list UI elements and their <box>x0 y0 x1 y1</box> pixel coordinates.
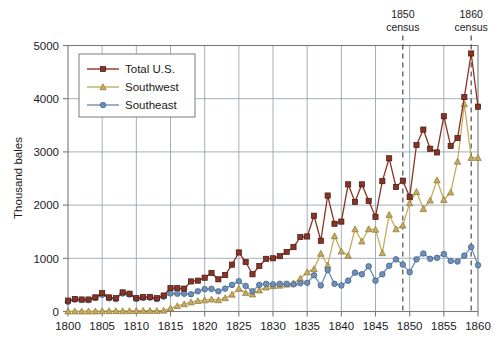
data-marker-square <box>202 275 207 280</box>
data-marker-circle <box>175 291 181 297</box>
data-marker-circle <box>236 278 242 284</box>
data-marker-circle <box>366 263 372 269</box>
data-marker-square <box>393 184 398 189</box>
y-tick-label: 1000 <box>33 253 59 265</box>
data-marker-square <box>161 293 166 298</box>
data-marker-square <box>141 295 146 300</box>
data-marker-circle <box>311 273 317 279</box>
data-marker-circle <box>277 281 283 287</box>
data-marker-circle <box>475 262 481 268</box>
data-marker-circle <box>414 257 420 263</box>
data-marker-square <box>400 178 405 183</box>
data-marker-square <box>209 270 214 275</box>
data-marker-circle <box>168 291 174 297</box>
census-1860-label-year: 1860 <box>459 8 483 20</box>
data-marker-circle <box>462 253 468 259</box>
x-tick-label: 1835 <box>294 320 320 332</box>
data-marker-square <box>106 295 111 300</box>
data-marker-circle <box>380 271 386 277</box>
data-marker-square <box>366 198 371 203</box>
census-1850-label-year: 1850 <box>391 8 415 20</box>
data-marker-square <box>305 234 310 239</box>
data-marker-square <box>154 296 159 301</box>
data-marker-circle <box>468 244 474 250</box>
data-marker-circle <box>434 255 440 261</box>
data-marker-square <box>113 296 118 301</box>
data-marker-square <box>332 221 337 226</box>
chart-legend: Total U.S.SouthwestSoutheast <box>79 54 195 117</box>
data-marker-circle <box>407 269 413 275</box>
x-tick-label: 1840 <box>329 320 355 332</box>
data-marker-square <box>134 296 139 301</box>
x-tick-label: 1805 <box>89 320 115 332</box>
data-marker-square <box>270 256 275 261</box>
data-marker-square <box>79 297 84 302</box>
data-marker-square <box>216 277 221 282</box>
data-marker-circle <box>339 283 345 289</box>
data-marker-square <box>250 272 255 277</box>
data-marker-circle <box>229 282 235 288</box>
data-marker-circle <box>421 251 427 257</box>
data-marker-square <box>100 66 105 71</box>
data-marker-circle <box>209 286 215 292</box>
data-marker-circle <box>373 278 379 284</box>
data-marker-square <box>434 150 439 155</box>
data-marker-circle <box>195 288 201 294</box>
x-tick-label: 1815 <box>158 320 184 332</box>
x-tick-label: 1820 <box>192 320 218 332</box>
data-marker-square <box>100 291 105 296</box>
x-tick-label: 1825 <box>226 320 252 332</box>
data-marker-square <box>475 104 480 109</box>
data-marker-square <box>339 219 344 224</box>
data-marker-square <box>448 143 453 148</box>
data-marker-square <box>352 199 357 204</box>
data-marker-square <box>72 296 77 301</box>
data-marker-square <box>86 297 91 302</box>
data-marker-square <box>359 182 364 187</box>
data-marker-circle <box>188 291 194 297</box>
x-tick-label: 1855 <box>431 320 457 332</box>
data-marker-square <box>298 234 303 239</box>
data-marker-circle <box>243 283 249 289</box>
census-1860-label-census: census <box>455 21 488 33</box>
data-marker-circle <box>263 281 269 287</box>
data-marker-circle <box>448 258 454 264</box>
y-tick-label: 0 <box>53 306 59 318</box>
data-marker-circle <box>100 102 106 108</box>
data-marker-circle <box>325 267 331 273</box>
x-tick-label: 1860 <box>465 320 491 332</box>
data-marker-square <box>325 193 330 198</box>
y-tick-label: 4000 <box>33 93 59 105</box>
data-marker-square <box>175 285 180 290</box>
data-marker-circle <box>291 282 297 288</box>
data-marker-circle <box>352 270 358 276</box>
data-marker-square <box>462 95 467 100</box>
y-tick-label: 5000 <box>33 40 59 52</box>
census-1850-label-census: census <box>386 21 419 33</box>
legend-label-total-u-s: Total U.S. <box>125 63 175 75</box>
data-marker-circle <box>222 286 228 292</box>
chart-canvas: 010002000300040005000 180018051810181518… <box>0 0 503 351</box>
data-marker-square <box>195 278 200 283</box>
data-marker-circle <box>393 257 399 263</box>
data-marker-circle <box>298 281 304 287</box>
data-marker-square <box>229 262 234 267</box>
y-tick-label: 2000 <box>33 199 59 211</box>
data-marker-circle <box>427 256 433 262</box>
data-marker-square <box>264 256 269 261</box>
data-marker-square <box>414 142 419 147</box>
data-marker-circle <box>400 262 406 268</box>
data-marker-square <box>182 286 187 291</box>
y-tick-label: 3000 <box>33 146 59 158</box>
data-marker-square <box>428 146 433 151</box>
data-marker-circle <box>257 282 263 288</box>
data-marker-square <box>455 135 460 140</box>
data-marker-square <box>65 298 70 303</box>
data-marker-square <box>387 156 392 161</box>
data-marker-square <box>284 249 289 254</box>
data-marker-circle <box>181 291 187 297</box>
x-tick-label: 1810 <box>124 320 150 332</box>
data-marker-square <box>257 263 262 268</box>
data-marker-square <box>469 51 474 56</box>
data-marker-square <box>311 213 316 218</box>
